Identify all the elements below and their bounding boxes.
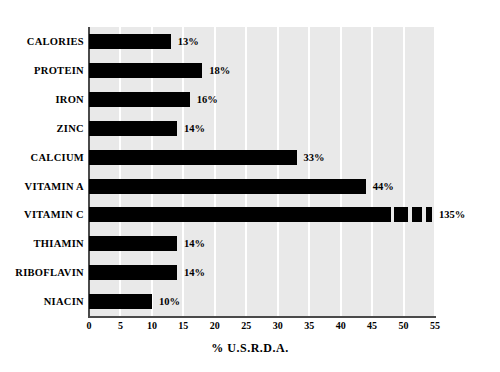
category-label-iron: IRON bbox=[0, 85, 84, 114]
chart-row: VITAMIN C135% bbox=[0, 200, 500, 229]
chart-row: PROTEIN18% bbox=[0, 56, 500, 85]
chart-row: RIBOFLAVIN14% bbox=[0, 258, 500, 287]
bar-value-label: 10% bbox=[159, 287, 180, 316]
bar-thiamin bbox=[89, 236, 177, 251]
chart-row: NIACIN10% bbox=[0, 287, 500, 316]
category-label-calcium: CALCIUM bbox=[0, 143, 84, 172]
bar-calcium bbox=[89, 150, 297, 165]
bar-riboflavin bbox=[89, 265, 177, 280]
x-axis-line bbox=[89, 316, 436, 318]
x-tick-label-5: 5 bbox=[105, 320, 135, 331]
chart-row: VITAMIN A44% bbox=[0, 172, 500, 201]
bar-value-label: 33% bbox=[304, 143, 325, 172]
x-tick-label-40: 40 bbox=[326, 320, 356, 331]
bar-value-label: 135% bbox=[439, 200, 465, 229]
category-label-niacin: NIACIN bbox=[0, 287, 84, 316]
category-label-zinc: ZINC bbox=[0, 114, 84, 143]
x-tick-label-30: 30 bbox=[263, 320, 293, 331]
bar-break-segment-3 bbox=[426, 207, 432, 222]
bar-break-segment-2 bbox=[412, 207, 422, 222]
bar-zinc bbox=[89, 121, 177, 136]
category-label-calories: CALORIES bbox=[0, 27, 84, 56]
bar-iron bbox=[89, 92, 190, 107]
bar-value-label: 13% bbox=[178, 27, 199, 56]
x-tick-label-45: 45 bbox=[357, 320, 387, 331]
chart-row: IRON16% bbox=[0, 85, 500, 114]
bar-calories bbox=[89, 34, 171, 49]
x-tick-label-20: 20 bbox=[200, 320, 230, 331]
bar-value-label: 44% bbox=[373, 172, 394, 201]
bar-vitamin-a bbox=[89, 179, 366, 194]
x-tick-label-15: 15 bbox=[168, 320, 198, 331]
category-label-vitamin-a: VITAMIN A bbox=[0, 172, 84, 201]
x-tick-label-10: 10 bbox=[137, 320, 167, 331]
bar-protein bbox=[89, 63, 202, 78]
bar-value-label: 18% bbox=[209, 56, 230, 85]
bar-value-label: 14% bbox=[184, 229, 205, 258]
chart-row: CALCIUM33% bbox=[0, 143, 500, 172]
x-tick-label-55: 55 bbox=[420, 320, 450, 331]
x-axis-title: % U.S.R.D.A. bbox=[0, 341, 500, 356]
bar-value-label: 14% bbox=[184, 258, 205, 287]
bar-niacin bbox=[89, 294, 152, 309]
bar-chart: CALORIES13%PROTEIN18%IRON16%ZINC14%CALCI… bbox=[0, 0, 500, 372]
chart-row: CALORIES13% bbox=[0, 27, 500, 56]
x-tick-label-35: 35 bbox=[294, 320, 324, 331]
bar-vitamin-c bbox=[89, 207, 391, 222]
chart-row: THIAMIN14% bbox=[0, 229, 500, 258]
category-label-thiamin: THIAMIN bbox=[0, 229, 84, 258]
category-label-riboflavin: RIBOFLAVIN bbox=[0, 258, 84, 287]
bar-value-label: 14% bbox=[184, 114, 205, 143]
chart-row: ZINC14% bbox=[0, 114, 500, 143]
bar-break-segment-1 bbox=[394, 207, 408, 222]
category-label-vitamin-c: VITAMIN C bbox=[0, 200, 84, 229]
x-tick-label-0: 0 bbox=[74, 320, 104, 331]
x-tick-label-25: 25 bbox=[231, 320, 261, 331]
category-label-protein: PROTEIN bbox=[0, 56, 84, 85]
bar-value-label: 16% bbox=[197, 85, 218, 114]
x-tick-label-50: 50 bbox=[389, 320, 419, 331]
